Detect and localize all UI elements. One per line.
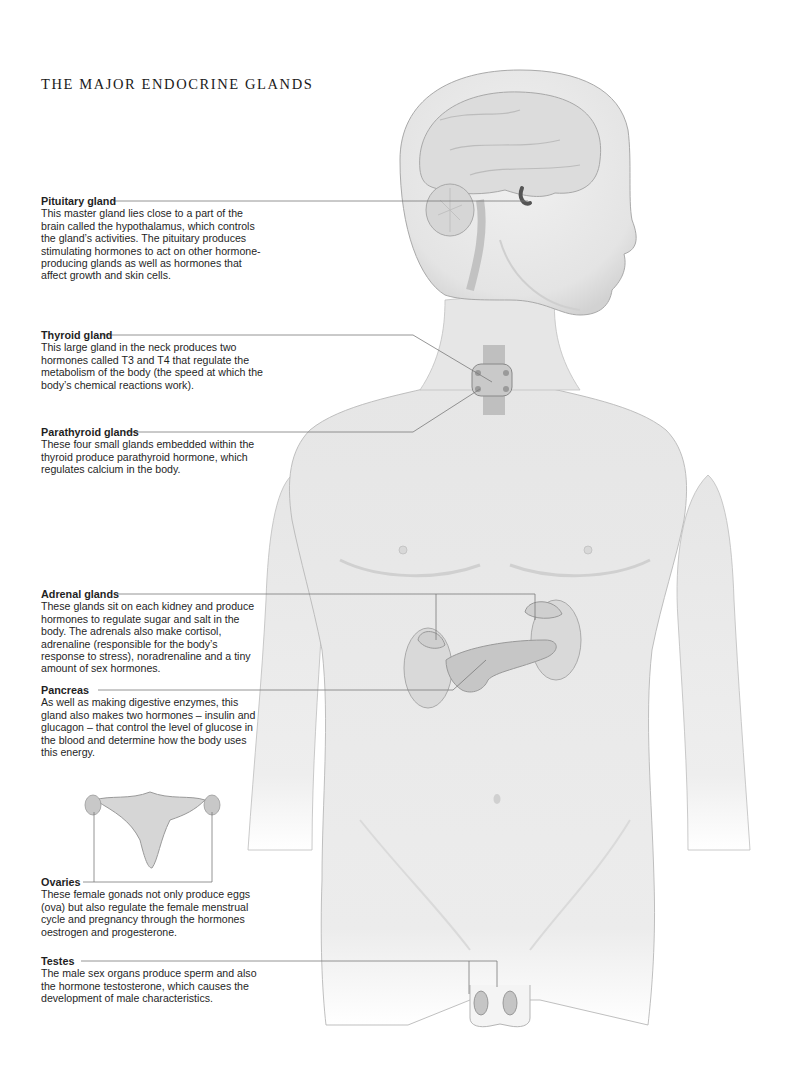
gland-name: Ovaries <box>41 876 263 888</box>
label-parathyroid-glands: Parathyroid glands These four small glan… <box>41 426 263 476</box>
right-arm <box>677 475 750 850</box>
gland-name: Testes <box>41 955 263 967</box>
gland-description: These female gonads not only produce egg… <box>41 888 263 938</box>
gland-name: Pituitary gland <box>41 195 263 207</box>
gland-name: Adrenal glands <box>41 588 263 600</box>
gland-description: These four small glands embedded within … <box>41 438 263 475</box>
testes-shape <box>470 985 530 1027</box>
label-ovaries: Ovaries These female gonads not only pro… <box>41 876 263 938</box>
gland-description: These glands sit on each kidney and prod… <box>41 600 263 674</box>
gland-description: This master gland lies close to a part o… <box>41 207 263 281</box>
page-title: THE MAJOR ENDOCRINE GLANDS <box>41 76 313 93</box>
label-pituitary-gland: Pituitary gland This master gland lies c… <box>41 195 263 282</box>
ovaries-inset <box>85 792 220 868</box>
torso <box>289 385 686 1025</box>
label-testes: Testes The male sex organs produce sperm… <box>41 955 263 1005</box>
gland-name: Parathyroid glands <box>41 426 263 438</box>
thyroid-shape <box>472 364 512 396</box>
gland-description: The male sex organs produce sperm and al… <box>41 967 263 1004</box>
label-thyroid-gland: Thyroid gland This large gland in the ne… <box>41 329 263 391</box>
gland-name: Pancreas <box>41 684 263 696</box>
label-pancreas: Pancreas As well as making digestive enz… <box>41 684 263 758</box>
gland-name: Thyroid gland <box>41 329 263 341</box>
label-adrenal-glands: Adrenal glands These glands sit on each … <box>41 588 263 675</box>
head <box>400 70 636 315</box>
gland-description: As well as making digestive enzymes, thi… <box>41 696 263 758</box>
gland-description: This large gland in the neck produces tw… <box>41 341 263 391</box>
